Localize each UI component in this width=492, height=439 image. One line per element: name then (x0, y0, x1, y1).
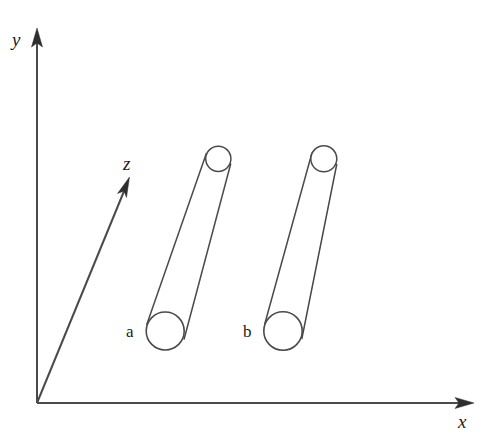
cylinder-b-bottom-cap (264, 312, 302, 350)
y-axis-label: y (10, 29, 21, 50)
x-axis (37, 398, 474, 409)
cylinder-a-left-edge (147, 153, 207, 325)
cylinder-a-label: a (126, 322, 134, 341)
x-axis-label: x (457, 411, 467, 432)
figure-canvas: y x z a b (0, 0, 492, 439)
cylinder-a-bottom-cap (146, 312, 184, 350)
cylinder-a-top-cap (206, 146, 231, 171)
cylinder-b-left-edge (265, 153, 312, 325)
coordinate-system-diagram: y x z a b (0, 0, 492, 439)
cylinder-b-right-edge (302, 164, 337, 339)
z-axis-line (37, 190, 125, 403)
z-axis-label: z (122, 153, 131, 174)
cylinder-b (264, 146, 337, 350)
cylinder-b-top-cap (311, 146, 337, 172)
cylinder-b-label: b (243, 322, 252, 341)
y-axis (32, 28, 43, 403)
z-axis (37, 177, 130, 403)
cylinder-a-right-edge (184, 164, 231, 340)
cylinder-a (146, 146, 231, 350)
